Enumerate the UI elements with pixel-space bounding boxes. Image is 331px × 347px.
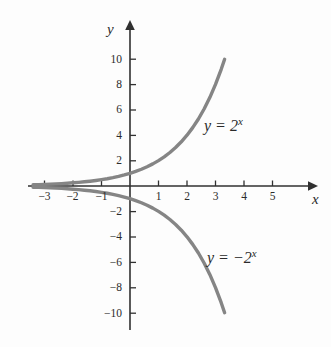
x-tick-label-5: 5 xyxy=(262,191,283,203)
curve-label-positive: y = 2x xyxy=(204,116,243,134)
y-axis-arrowhead xyxy=(125,20,135,30)
curve-label-negative-base: y = −2 xyxy=(207,249,252,266)
y-tick-label-2: 2 xyxy=(100,155,122,167)
curve-y-equals-negative-2-to-the-x xyxy=(33,187,225,313)
cartesian-plot-svg xyxy=(0,0,331,347)
y-tick-label-10: 10 xyxy=(100,54,122,66)
x-axis-arrowhead xyxy=(308,181,318,191)
y-tick-label--8: −8 xyxy=(96,282,122,294)
x-tick-label--3: −3 xyxy=(33,191,56,203)
curve-label-negative: y = −2x xyxy=(207,248,257,266)
y-tick-label-8: 8 xyxy=(100,79,122,91)
x-axis-label: x xyxy=(312,192,319,207)
x-tick-label-1: 1 xyxy=(148,191,169,203)
curve-y-equals-2-to-the-x xyxy=(33,59,225,185)
curve-label-positive-base: y = 2 xyxy=(204,117,238,134)
y-tick-label--4: −4 xyxy=(96,231,122,243)
x-tick-label--2: −2 xyxy=(61,191,84,203)
exponential-graph-figure: 10 8 6 4 2 −2 −4 −6 −8 −10 −3 −2 −1 1 2 … xyxy=(0,0,331,347)
x-tick-label-2: 2 xyxy=(177,191,198,203)
y-tick-label--2: −2 xyxy=(96,206,122,218)
y-tick-label-4: 4 xyxy=(100,130,122,142)
x-tick-label-3: 3 xyxy=(205,191,226,203)
y-tick-label--6: −6 xyxy=(96,257,122,269)
y-axis-label: y xyxy=(107,22,114,37)
curve-label-negative-exponent: x xyxy=(252,247,257,259)
x-tick-label-4: 4 xyxy=(234,191,255,203)
x-tick-label--1: −1 xyxy=(90,191,113,203)
curve-label-positive-exponent: x xyxy=(238,115,243,127)
y-tick-label-6: 6 xyxy=(100,104,122,116)
axes-group xyxy=(28,20,318,330)
y-tick-label--10: −10 xyxy=(90,308,122,320)
